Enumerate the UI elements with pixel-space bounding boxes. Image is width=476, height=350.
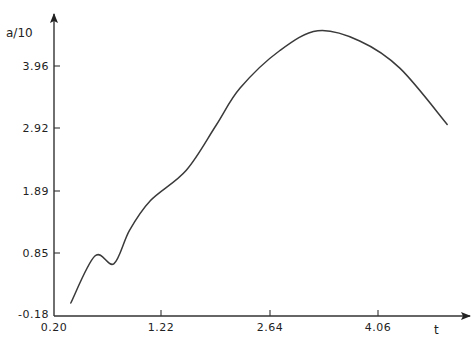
data-curve xyxy=(71,31,447,303)
x-axis-label: t xyxy=(434,323,439,337)
y-axis-label: a/10 xyxy=(6,26,33,40)
y-tick-label: 1.89 xyxy=(23,185,50,198)
x-tick-label: 4.06 xyxy=(365,321,392,334)
x-tick-label: 1.22 xyxy=(148,321,175,334)
y-tick-label: 0.85 xyxy=(23,247,50,260)
x-ticks: 0.20 1.22 2.64 4.06 xyxy=(41,310,392,334)
y-tick-label: -0.18 xyxy=(18,308,49,321)
x-tick-label: 2.64 xyxy=(257,321,284,334)
x-tick-label: 0.20 xyxy=(41,321,68,334)
y-tick-label: 3.96 xyxy=(23,60,50,73)
y-tick-label: 2.92 xyxy=(23,122,50,135)
line-chart: a/10 t 3.96 2.92 1.89 0.85 -0.18 0.20 1.… xyxy=(0,0,476,350)
